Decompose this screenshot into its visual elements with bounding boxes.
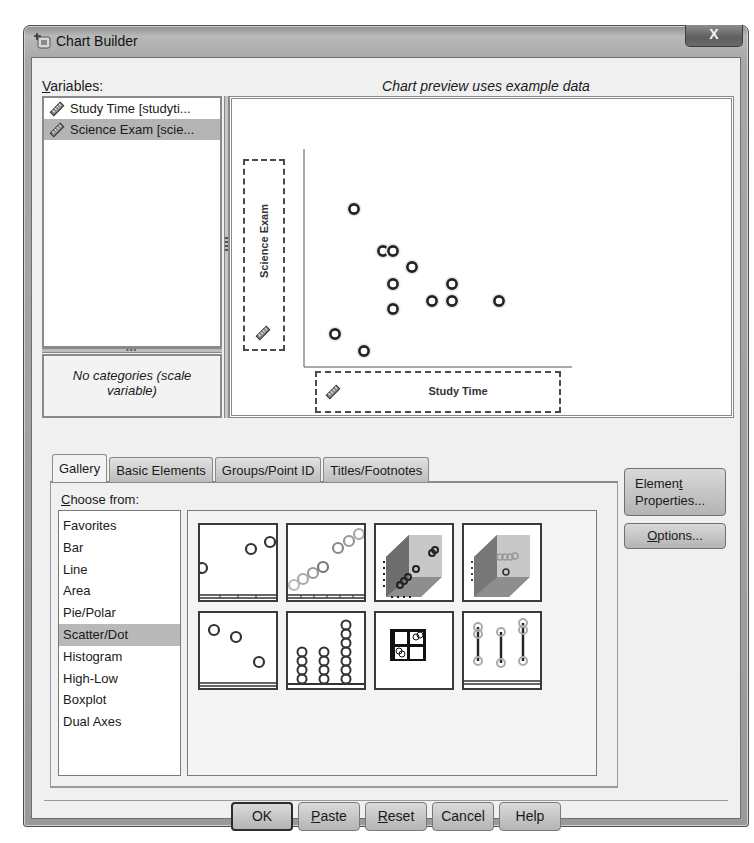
thumb-summary-point-plot[interactable] [198,611,278,690]
chart-type-high-low[interactable]: High-Low [59,668,180,690]
scatter-point [330,329,339,338]
grouped-3d-scatter-icon [464,525,540,600]
variables-horizontal-splitter[interactable]: ••• [42,348,222,353]
thumb-grouped-3d-scatter[interactable] [462,523,542,602]
choose-from-label: Choose from: [61,492,139,507]
chart-type-area[interactable]: Area [59,580,180,602]
tab-titles-footnotes[interactable]: Titles/Footnotes [323,457,429,482]
close-icon: X [709,26,718,42]
dialog-client-area: Variables: Chart preview uses example da… [31,57,741,819]
scatter-point [427,296,436,305]
ok-button[interactable]: OK [231,802,293,831]
scale-ruler-icon [49,101,65,117]
title-bar[interactable]: Chart Builder X [24,26,748,56]
simple-3d-scatter-icon [376,525,452,600]
thumb-grouped-scatter[interactable] [286,523,366,602]
chart-type-list[interactable]: Favorites Bar Line Area Pie/Polar Scatte… [58,510,181,776]
tab-basic-elements[interactable]: Basic Elements [109,457,213,482]
chart-preview-canvas[interactable]: Science Exam Study Time [229,96,734,418]
chart-type-dual-axes[interactable]: Dual Axes [59,711,180,733]
x-axis-label: Study Time [317,385,559,397]
reset-button[interactable]: Reset [365,802,427,831]
scatter-point [349,204,358,213]
y-axis-label: Science Exam [258,204,270,278]
summary-point-plot-icon [200,613,276,688]
variable-item-science-exam[interactable]: Science Exam [scie... [44,119,220,140]
tab-gallery[interactable]: Gallery [52,454,107,482]
chart-type-line[interactable]: Line [59,559,180,581]
variables-list[interactable]: Study Time [studyti... Science Exam [sci… [42,96,222,348]
variables-label: Variables: [42,78,103,94]
scatter-point [388,279,397,288]
variable-item-study-time[interactable]: Study Time [studyti... [44,98,220,119]
scale-ruler-icon [49,122,65,138]
window-title: Chart Builder [56,33,138,49]
help-button[interactable]: Help [499,802,561,831]
variable-label: Study Time [studyti... [70,98,191,119]
element-properties-button[interactable]: Element Properties... [624,468,726,516]
cancel-button[interactable]: Cancel [432,802,494,831]
scatter-point [447,279,456,288]
chart-type-boxplot[interactable]: Boxplot [59,689,180,711]
categories-info-box: No categories (scale variable) [42,354,222,418]
thumb-scatterplot-matrix[interactable] [374,611,454,690]
thumb-simple-dot-plot[interactable] [286,611,366,690]
scatter-point [388,304,397,313]
chart-type-favorites[interactable]: Favorites [59,515,180,537]
y-axis-drop-zone[interactable]: Science Exam [243,159,285,351]
bottom-separator [44,800,728,801]
preview-caption: Chart preview uses example data [232,78,740,94]
splitter-grip-icon [225,237,228,251]
tab-strip: Gallery Basic Elements Groups/Point ID T… [52,454,429,482]
scatterplot-matrix-icon [376,613,452,688]
chart-type-pie-polar[interactable]: Pie/Polar [59,602,180,624]
scatter-preview [232,99,731,415]
thumb-simple-scatter[interactable] [198,523,278,602]
categories-note: No categories (scale variable) [73,368,192,398]
chart-type-histogram[interactable]: Histogram [59,646,180,668]
close-button[interactable]: X [685,25,743,47]
options-button[interactable]: Options... [624,523,726,549]
scatter-point [447,296,456,305]
grouped-scatter-icon [288,525,364,600]
scatter-point [388,246,397,255]
scale-ruler-icon [255,325,271,341]
thumb-drop-line[interactable] [462,611,542,690]
chart-builder-app-icon [33,32,51,49]
gallery-thumbnails [187,510,597,776]
paste-button[interactable]: Paste [298,802,360,831]
variable-label: Science Exam [scie... [70,119,194,140]
scatter-point [359,346,368,355]
scatter-point [494,296,503,305]
chart-type-bar[interactable]: Bar [59,537,180,559]
scatter-point [407,262,416,271]
x-axis-drop-zone[interactable]: Study Time [315,371,561,413]
simple-dot-plot-icon [288,613,364,688]
tab-groups-point-id[interactable]: Groups/Point ID [215,457,322,482]
chart-type-scatter-dot[interactable]: Scatter/Dot [59,624,180,646]
drop-line-icon [464,613,540,688]
thumb-simple-3d-scatter[interactable] [374,523,454,602]
chart-builder-window: Chart Builder X Variables: Chart preview… [23,25,749,827]
simple-scatter-icon [200,525,276,600]
